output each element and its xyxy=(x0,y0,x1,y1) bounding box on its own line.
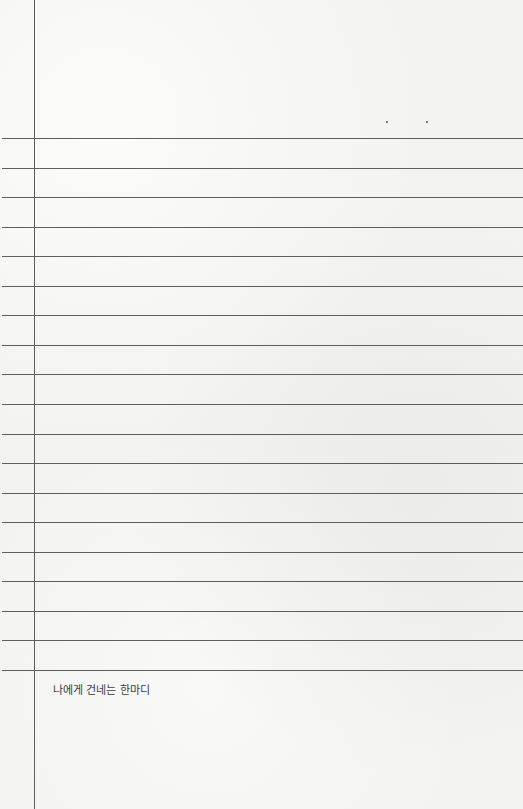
ruled-line xyxy=(2,640,523,641)
ruled-line xyxy=(2,404,523,405)
ruled-line xyxy=(2,256,523,257)
ruled-line xyxy=(2,463,523,464)
ruled-line xyxy=(2,552,523,553)
ruled-line xyxy=(2,581,523,582)
ruled-line xyxy=(2,522,523,523)
ruled-line xyxy=(2,315,523,316)
ruled-line xyxy=(2,286,523,287)
ruled-line xyxy=(2,374,523,375)
ruled-line xyxy=(2,197,523,198)
ruled-line xyxy=(2,434,523,435)
ruled-line xyxy=(2,138,523,139)
ruled-line xyxy=(2,611,523,612)
dot-icon xyxy=(386,121,388,123)
ruled-line xyxy=(2,493,523,494)
dot-icon xyxy=(426,121,428,123)
ruled-line xyxy=(2,168,523,169)
ruled-line xyxy=(2,670,523,671)
ruled-line xyxy=(2,227,523,228)
caption-text: 나에게 건네는 한마디 xyxy=(53,683,150,699)
lined-paper-page: 나에게 건네는 한마디 xyxy=(0,0,523,809)
ruled-line xyxy=(2,345,523,346)
